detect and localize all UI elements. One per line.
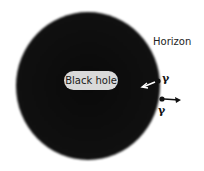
- particle-out-dot: [159, 96, 164, 101]
- gamma-out-label: γ: [158, 104, 165, 117]
- particle-arrows: [0, 0, 204, 171]
- particle-in-dot: [155, 78, 160, 83]
- gamma-in-label: γ: [162, 72, 169, 85]
- outward-arrowhead-icon: [175, 97, 181, 103]
